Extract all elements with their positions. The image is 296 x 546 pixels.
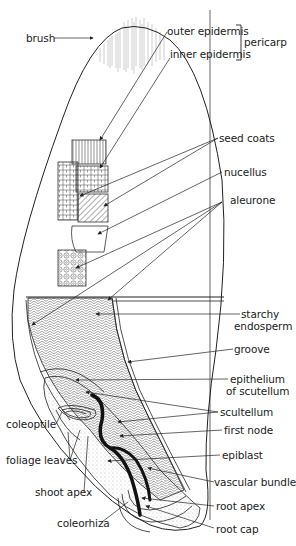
label-seed-coats: seed coats (219, 132, 275, 144)
label-vascular-bundle: vascular bundle (214, 476, 296, 488)
label-epithelium: epithelium (230, 373, 285, 385)
label-inner-epidermis: inner epidermis (170, 48, 251, 60)
label-starchy: starchy (241, 308, 279, 320)
label-shoot-apex: shoot apex (35, 486, 92, 498)
label-brush: brush (26, 32, 55, 44)
label-root-cap: root cap (216, 523, 258, 535)
label-coleorhiza: coleorhiza (57, 517, 110, 529)
label-pericarp: pericarp (244, 36, 287, 48)
label-nucellus: nucellus (224, 166, 267, 178)
label-first-node: first node (224, 424, 273, 436)
label-aleurone: aleurone (230, 194, 275, 206)
label-endosperm: endosperm (234, 320, 292, 332)
tissue-layers-inset (58, 140, 108, 286)
wheat-grain-diagram: brush outer epidermis inner epidermis pe… (0, 0, 296, 546)
label-scutellum: scultellum (220, 406, 273, 418)
label-coleoptile: coleoptile (6, 418, 56, 430)
label-epiblast: epiblast (222, 449, 263, 461)
label-groove: groove (234, 343, 270, 355)
brush-hairs (100, 17, 164, 74)
label-root-apex: root apex (216, 500, 265, 512)
label-outer-epidermis: outer epidermis (167, 25, 249, 37)
label-foliage-leaves: foliage leaves (6, 454, 77, 466)
label-of-scutellum: of scutellum (226, 385, 289, 397)
